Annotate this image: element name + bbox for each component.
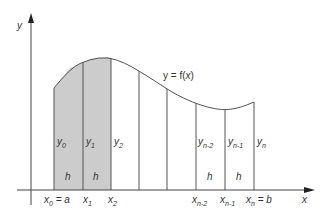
abscissa-label: x0 = a [43, 194, 70, 207]
trapezoid-rule-diagram: y x y = f(x) y0 y1 y2 yn-2 yn-1 yn h h h… [0, 0, 326, 217]
abscissa-label: xn = b [245, 194, 272, 207]
y-axis-arrow-icon [28, 13, 34, 23]
abscissa-labels: x0 = a x1 x2 xn-2 xn-1 xn = b [43, 194, 272, 207]
abscissa-label: x2 [107, 194, 117, 207]
abscissa-label: xn-1 [219, 194, 235, 207]
abscissa-label: x1 [82, 194, 92, 207]
curve-label: y = f(x) [163, 70, 194, 81]
x-axis-arrow-icon [304, 187, 315, 193]
ordinate-label: yn [256, 136, 266, 149]
strip-width-label: h [65, 171, 71, 182]
strip-width-label: h [236, 171, 242, 182]
y-axis-label: y [16, 20, 23, 31]
ordinate-label: yn-1 [227, 136, 243, 149]
abscissa-label: xn-2 [191, 194, 207, 207]
ordinate-label: y2 [113, 136, 123, 149]
strip-width-label: h [207, 171, 213, 182]
strip-width-label: h [93, 171, 99, 182]
ordinate-label: yn-2 [197, 136, 213, 149]
x-axis-label: x [301, 194, 308, 205]
